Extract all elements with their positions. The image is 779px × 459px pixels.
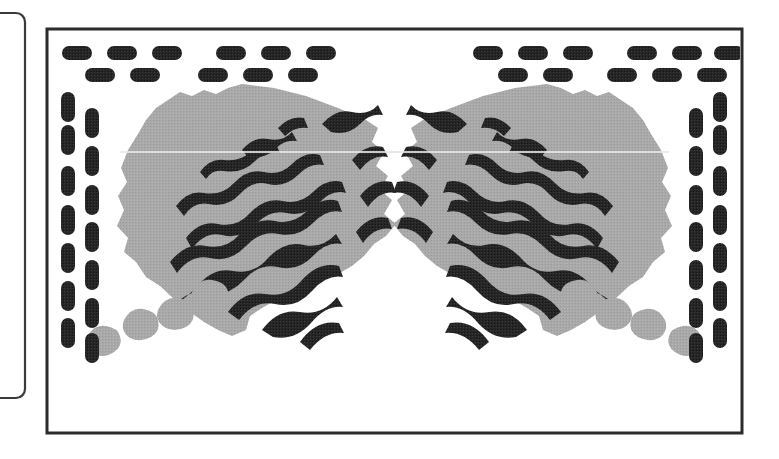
dash-pill-right-outer xyxy=(713,166,727,196)
dash-pill-top-inner xyxy=(198,68,228,82)
dash-pill-top-inner xyxy=(85,68,115,82)
dash-pill-top-inner xyxy=(607,68,637,82)
dash-pill-top-outer xyxy=(261,46,291,60)
dash-pill-top-outer xyxy=(563,46,593,60)
left-scan-highlight xyxy=(120,151,400,153)
dash-pill-right-outer xyxy=(713,281,727,311)
dash-pill-right-inner xyxy=(689,333,703,363)
dash-pill-left-inner xyxy=(85,108,99,138)
dash-pill-left-outer xyxy=(61,166,75,196)
dash-pill-left-outer xyxy=(61,243,75,273)
scanned-figure xyxy=(0,0,779,459)
dash-pill-top-inner xyxy=(543,68,573,82)
dash-pill-left-outer xyxy=(61,318,75,348)
dash-pill-right-inner xyxy=(689,222,703,252)
dash-pill-left-inner xyxy=(85,222,99,252)
dash-pill-top-outer xyxy=(216,46,246,60)
dash-pill-top-inner xyxy=(697,68,727,82)
dash-pill-top-inner xyxy=(288,68,318,82)
dash-pill-top-outer xyxy=(107,46,137,60)
dash-pill-top-outer xyxy=(152,46,182,60)
dash-pill-top-inner xyxy=(498,68,528,82)
dash-pill-right-outer xyxy=(713,243,727,273)
dash-pill-right-inner xyxy=(689,185,703,215)
figure-page xyxy=(0,0,779,459)
dash-pill-left-inner xyxy=(85,260,99,290)
dash-pill-left-outer xyxy=(61,125,75,155)
dash-pill-top-inner xyxy=(130,68,160,82)
dash-pill-right-outer xyxy=(713,318,727,348)
dash-pill-top-outer xyxy=(627,46,657,60)
dash-pill-left-outer xyxy=(61,205,75,235)
dash-pill-top-outer xyxy=(714,46,744,60)
dash-pill-left-inner xyxy=(85,185,99,215)
dash-pill-top-outer xyxy=(62,46,92,60)
dash-pill-right-inner xyxy=(689,146,703,176)
dash-pill-left-inner xyxy=(85,146,99,176)
dash-pill-top-outer xyxy=(518,46,548,60)
dash-pill-right-inner xyxy=(689,260,703,290)
dash-pill-top-inner xyxy=(652,68,682,82)
dash-pill-top-inner xyxy=(243,68,273,82)
dash-pill-top-outer xyxy=(306,46,336,60)
dash-pill-left-inner xyxy=(85,298,99,328)
dash-pill-left-outer xyxy=(61,92,75,122)
dash-pill-top-outer xyxy=(672,46,702,60)
right-scan-highlight xyxy=(389,151,669,153)
dash-pill-right-outer xyxy=(713,92,727,122)
dash-pill-left-outer xyxy=(61,281,75,311)
dash-pill-right-outer xyxy=(713,205,727,235)
dash-pill-top-outer xyxy=(473,46,503,60)
dash-pill-left-inner xyxy=(85,333,99,363)
dash-pill-right-outer xyxy=(713,125,727,155)
dash-pill-right-inner xyxy=(689,108,703,138)
dash-pill-right-inner xyxy=(689,298,703,328)
